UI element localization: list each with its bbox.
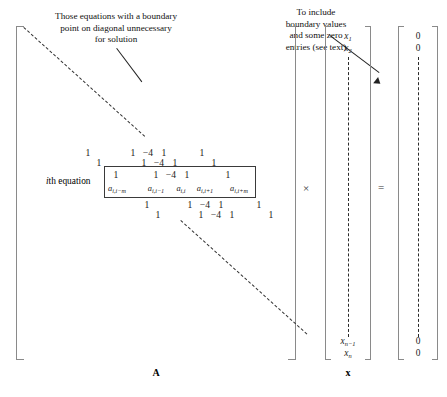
x-vector-entry: x1 xyxy=(331,31,365,44)
matrix-cell: 1 xyxy=(196,148,208,158)
matrix-cell: −4 xyxy=(208,210,224,220)
symbolic-sub: i,i−1 xyxy=(152,187,164,194)
x-entry-sub: n xyxy=(348,352,351,359)
symbolic-sub: i,i xyxy=(181,187,186,194)
symbolic-sub: i,i−m xyxy=(112,187,126,194)
x-entry-sub: 1 xyxy=(348,35,351,42)
x-vector-entry: xn xyxy=(331,348,365,361)
arrowhead-right xyxy=(373,77,383,87)
matrix-bracket-right xyxy=(288,26,296,360)
x-vector-label: x xyxy=(338,367,358,378)
matrix-cell: 1 xyxy=(195,210,207,220)
matrix-equation-figure: Those equations with a boundary point on… xyxy=(0,0,447,397)
times-symbol: × xyxy=(303,182,309,194)
matrix-symbolic-cell: ai,i−m xyxy=(100,184,134,195)
matrix-cell: 1 xyxy=(265,210,277,220)
x-vector-vertical-dots xyxy=(348,57,349,337)
matrix-symbolic-cell: ai,i−1 xyxy=(140,184,172,195)
ith-equation-text: th equation xyxy=(49,176,91,186)
matrix-cell: 1 xyxy=(184,200,196,210)
annotation-left-note: Those equations with a boundary point on… xyxy=(26,11,206,46)
matrix-symbolic-cell: ai,i+1 xyxy=(189,184,221,195)
symbolic-sub: i,i+1 xyxy=(201,187,213,194)
matrix-cell: 1 xyxy=(141,200,153,210)
matrix-symbolic-cell: ai,i+m xyxy=(222,184,256,195)
matrix-a-label: A xyxy=(146,367,166,378)
x-vector-bracket-left xyxy=(325,26,331,360)
rhs-vector-entry: 0 xyxy=(403,43,433,53)
matrix-cell: 1 xyxy=(226,210,238,220)
matrix-cell: −4 xyxy=(163,170,179,180)
rhs-vector-bracket-left xyxy=(398,26,404,360)
matrix-cell: 1 xyxy=(127,148,139,158)
matrix-cell: 1 xyxy=(181,170,193,180)
matrix-bracket-left xyxy=(16,26,24,360)
x-vector-entry: x2 xyxy=(331,43,365,56)
rhs-vector-entry: 0 xyxy=(403,31,433,41)
matrix-cell: 1 xyxy=(253,200,265,210)
x-entry-sub: n−1 xyxy=(345,340,356,347)
rhs-vector-bracket-right xyxy=(432,26,438,360)
x-vector-bracket-right xyxy=(365,26,371,360)
matrix-cell: 1 xyxy=(82,148,94,158)
matrix-cell: 1 xyxy=(152,210,164,220)
matrix-cell: 1 xyxy=(222,170,234,180)
equals-symbol: = xyxy=(378,181,384,193)
matrix-cell: 1 xyxy=(110,170,122,180)
symbolic-sub: i,i+m xyxy=(234,187,248,194)
x-vector-entry: xn−1 xyxy=(329,336,367,349)
rhs-vector-entry: 0 xyxy=(403,348,433,358)
leader-line-left xyxy=(116,48,142,82)
rhs-vector-vertical-dots xyxy=(418,57,419,337)
ith-equation-label: ith equation xyxy=(46,176,91,186)
rhs-vector-entry: 0 xyxy=(403,336,433,346)
matrix-cell: 1 xyxy=(150,170,162,180)
x-entry-sub: 2 xyxy=(348,47,351,54)
